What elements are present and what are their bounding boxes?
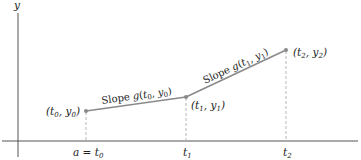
point-p2 <box>284 48 288 52</box>
tick-label-t0: a = t0 <box>73 146 104 160</box>
tick-label-t2: t2 <box>283 146 292 160</box>
point-p0 <box>84 109 88 113</box>
slope-label-1: Slope g(t1, y1) <box>201 46 271 88</box>
point-p1 <box>184 95 188 99</box>
y-axis-label: y <box>13 0 21 11</box>
tick-label-t1: t1 <box>183 146 192 160</box>
point-label-p2: (t2, y2) <box>293 46 327 60</box>
euler-diagram: y (t0, y0) (t1, y1) (t2, y2) Slope g(t0,… <box>0 0 361 160</box>
point-label-p1: (t1, y1) <box>191 99 225 113</box>
point-label-p0: (t0, y0) <box>46 105 80 119</box>
segment-1 <box>186 50 286 97</box>
